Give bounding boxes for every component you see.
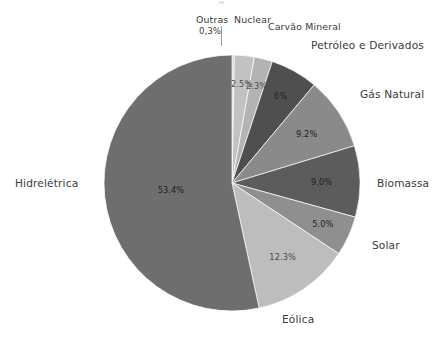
slice-label-hidreletrica: Hidrelétrica bbox=[15, 177, 78, 189]
slice-label-outras: Outras bbox=[196, 15, 228, 26]
slice-label-carvao-mineral: Carvão Mineral bbox=[268, 22, 341, 33]
pie-slice-value-label: 6% bbox=[274, 91, 287, 101]
pie-slice-value-label: 9.0% bbox=[311, 177, 332, 187]
slice-label-eolica: Eólica bbox=[282, 313, 314, 325]
slice-label-gas-natural: Gás Natural bbox=[360, 88, 424, 100]
pie-slice-value-label: 53.4% bbox=[158, 185, 185, 195]
slice-label-solar: Solar bbox=[372, 239, 400, 251]
slice-label-biomassa: Biomassa bbox=[377, 177, 429, 189]
slice-label-petroleo-e-derivados: Petróleo e Derivados bbox=[311, 39, 424, 51]
slice-value-outras: 0,3% bbox=[199, 26, 221, 36]
pie-chart-canvas: 2.5%2.3%6%9.2%9.0%5.0%12.3%53.4% bbox=[0, 0, 444, 344]
pie-slice-value-label: 12.3% bbox=[269, 252, 296, 262]
pie-slice-value-label: 5.0% bbox=[312, 219, 333, 229]
slice-label-nuclear: Nuclear bbox=[234, 15, 271, 26]
pie-slice-value-label: 9.2% bbox=[296, 129, 317, 139]
pie-chart-figure: 2.5%2.3%6%9.2%9.0%5.0%12.3%53.4% Outras … bbox=[0, 0, 444, 344]
leader-line-outras bbox=[221, 26, 222, 46]
pie-slice-value-label: 2.3% bbox=[246, 81, 267, 91]
